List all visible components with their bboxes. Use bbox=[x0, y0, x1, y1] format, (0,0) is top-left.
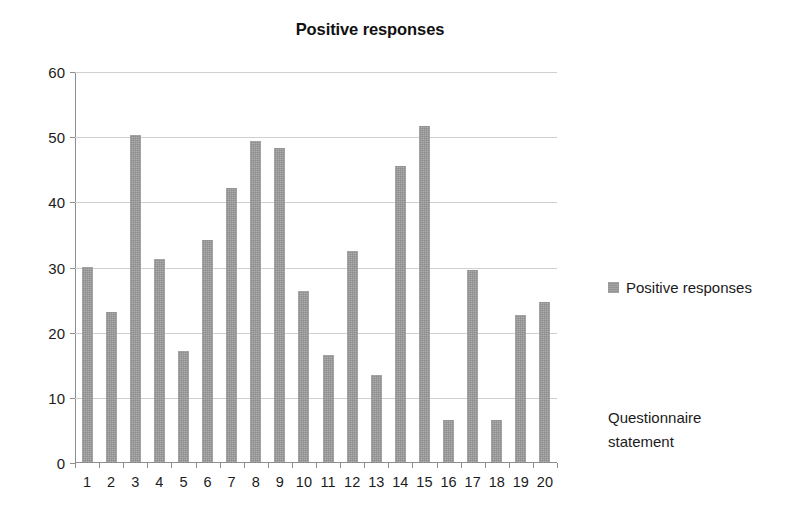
y-tick-mark bbox=[70, 72, 75, 73]
x-tick-label: 12 bbox=[344, 474, 360, 490]
x-axis-caption: Questionnaire statement bbox=[608, 406, 788, 454]
legend-swatch-icon bbox=[608, 282, 619, 293]
x-tick-label: 11 bbox=[321, 474, 336, 490]
gridline bbox=[75, 398, 557, 399]
chart-canvas: Positive responses 0102030405060 1234567… bbox=[0, 0, 808, 518]
gridline bbox=[75, 137, 557, 138]
bar bbox=[347, 251, 358, 462]
x-tick-mark bbox=[412, 463, 413, 468]
plot-area: 0102030405060 12345678910111213141516171… bbox=[75, 72, 557, 463]
gridline bbox=[75, 202, 557, 203]
x-tick-label: 6 bbox=[204, 474, 212, 490]
x-tick-mark bbox=[364, 463, 365, 468]
bar bbox=[274, 148, 285, 462]
y-tick-label: 60 bbox=[48, 64, 65, 81]
x-tick-label: 15 bbox=[416, 474, 432, 490]
bar bbox=[443, 420, 454, 462]
bar bbox=[515, 315, 526, 462]
x-tick-mark bbox=[316, 463, 317, 468]
bar bbox=[323, 355, 334, 462]
x-tick-mark bbox=[123, 463, 124, 468]
bar bbox=[250, 141, 261, 462]
x-tick-mark bbox=[509, 463, 510, 468]
bar bbox=[395, 166, 406, 462]
x-tick-label: 4 bbox=[155, 474, 163, 490]
y-tick-mark bbox=[70, 202, 75, 203]
gridline bbox=[75, 333, 557, 334]
x-tick-mark bbox=[268, 463, 269, 468]
bar bbox=[467, 270, 478, 462]
bar bbox=[82, 267, 93, 463]
x-tick-mark bbox=[220, 463, 221, 468]
x-axis-caption-line-1: Questionnaire bbox=[608, 406, 788, 430]
x-tick-label: 19 bbox=[513, 474, 529, 490]
x-tick-mark bbox=[196, 463, 197, 468]
chart-title: Positive responses bbox=[230, 20, 510, 39]
bar bbox=[298, 291, 309, 462]
bar bbox=[539, 302, 550, 462]
bar bbox=[154, 259, 165, 462]
y-tick-label: 40 bbox=[48, 194, 65, 211]
y-tick-label: 30 bbox=[48, 259, 65, 276]
x-tick-mark bbox=[99, 463, 100, 468]
y-tick-mark bbox=[70, 137, 75, 138]
x-tick-mark bbox=[244, 463, 245, 468]
x-tick-label: 1 bbox=[83, 474, 91, 490]
x-tick-label: 10 bbox=[296, 474, 312, 490]
x-tick-label: 5 bbox=[179, 474, 187, 490]
chart-legend: Positive responses bbox=[608, 279, 752, 296]
bar bbox=[371, 375, 382, 462]
y-tick-label: 50 bbox=[48, 129, 65, 146]
x-tick-label: 14 bbox=[392, 474, 408, 490]
x-tick-label: 13 bbox=[368, 474, 384, 490]
y-tick-label: 0 bbox=[57, 455, 65, 472]
x-tick-label: 3 bbox=[131, 474, 139, 490]
x-tick-label: 17 bbox=[465, 474, 481, 490]
x-tick-mark bbox=[485, 463, 486, 468]
y-tick-mark bbox=[70, 268, 75, 269]
x-tick-mark bbox=[557, 463, 558, 468]
y-tick-label: 20 bbox=[48, 324, 65, 341]
x-tick-mark bbox=[147, 463, 148, 468]
bar bbox=[491, 420, 502, 462]
x-tick-mark bbox=[75, 463, 76, 468]
gridline bbox=[75, 268, 557, 269]
x-tick-label: 20 bbox=[537, 474, 553, 490]
legend-label: Positive responses bbox=[626, 279, 752, 296]
bar bbox=[130, 135, 141, 462]
x-tick-mark bbox=[292, 463, 293, 468]
y-tick-label: 10 bbox=[48, 389, 65, 406]
x-tick-label: 2 bbox=[107, 474, 115, 490]
bar bbox=[202, 240, 213, 462]
bar bbox=[106, 312, 117, 462]
x-tick-mark bbox=[461, 463, 462, 468]
bar bbox=[419, 126, 430, 462]
x-axis-caption-line-2: statement bbox=[608, 430, 788, 454]
x-tick-mark bbox=[388, 463, 389, 468]
y-tick-mark bbox=[70, 333, 75, 334]
x-tick-label: 8 bbox=[252, 474, 260, 490]
y-tick-mark bbox=[70, 398, 75, 399]
x-tick-label: 9 bbox=[276, 474, 284, 490]
x-tick-mark bbox=[340, 463, 341, 468]
x-tick-mark bbox=[533, 463, 534, 468]
x-tick-label: 7 bbox=[228, 474, 236, 490]
bar bbox=[178, 351, 189, 462]
x-tick-label: 18 bbox=[489, 474, 505, 490]
gridline bbox=[75, 72, 557, 73]
x-tick-label: 16 bbox=[440, 474, 456, 490]
x-tick-mark bbox=[437, 463, 438, 468]
x-tick-mark bbox=[171, 463, 172, 468]
bar bbox=[226, 188, 237, 462]
